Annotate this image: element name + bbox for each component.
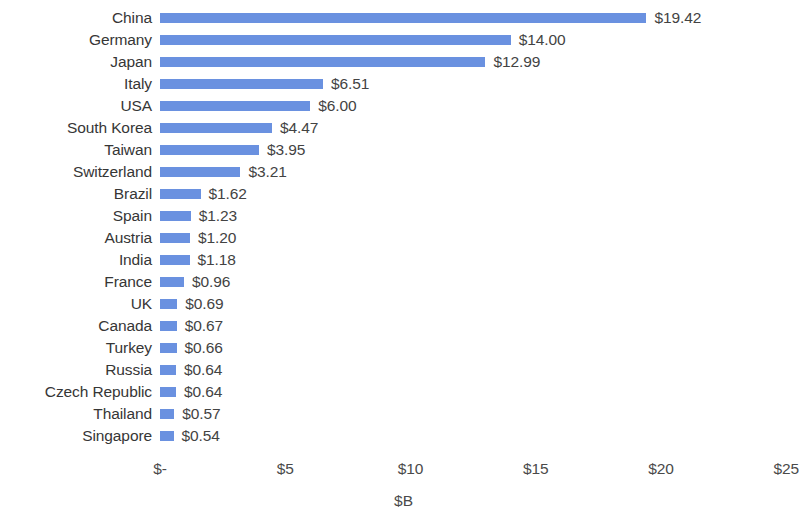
x-axis-tick-label: $5 — [277, 455, 294, 483]
bar-row: Canada$0.67 — [0, 315, 807, 337]
bar-row: France$0.96 — [0, 271, 807, 293]
bar — [160, 189, 201, 199]
bar-value-label: $0.54 — [182, 425, 220, 447]
bar-value-label: $19.42 — [654, 7, 701, 29]
category-label: France — [0, 271, 152, 293]
bar-row: Czech Republic$0.64 — [0, 381, 807, 403]
bar-value-label: $0.69 — [185, 293, 223, 315]
bar — [160, 123, 272, 133]
bar — [160, 145, 259, 155]
category-label: UK — [0, 293, 152, 315]
bar-value-label: $6.00 — [318, 95, 356, 117]
category-label: India — [0, 249, 152, 271]
bar — [160, 365, 176, 375]
bar-row: UK$0.69 — [0, 293, 807, 315]
bar-value-label: $0.57 — [182, 403, 220, 425]
bar — [160, 387, 176, 397]
bar-row: Taiwan$3.95 — [0, 139, 807, 161]
bar-value-label: $0.67 — [185, 315, 223, 337]
bar-row: USA$6.00 — [0, 95, 807, 117]
category-label: Germany — [0, 29, 152, 51]
bar-value-label: $4.47 — [280, 117, 318, 139]
bar — [160, 167, 240, 177]
bar-row: Japan$12.99 — [0, 51, 807, 73]
bar-row: Italy$6.51 — [0, 73, 807, 95]
bar — [160, 13, 646, 23]
bar-value-label: $0.64 — [184, 359, 222, 381]
bar-row: Singapore$0.54 — [0, 425, 807, 447]
bar-row: India$1.18 — [0, 249, 807, 271]
bar-value-label: $1.62 — [209, 183, 247, 205]
bar-row: Turkey$0.66 — [0, 337, 807, 359]
bar-chart: China$19.42Germany$14.00Japan$12.99Italy… — [0, 0, 807, 523]
x-axis-tick-label: $20 — [648, 455, 674, 483]
bar-value-label: $12.99 — [493, 51, 540, 73]
bar-row: South Korea$4.47 — [0, 117, 807, 139]
bar-value-label: $0.64 — [184, 381, 222, 403]
x-axis-title: $B — [0, 492, 807, 510]
category-label: Brazil — [0, 183, 152, 205]
bar — [160, 431, 174, 441]
category-label: Canada — [0, 315, 152, 337]
x-axis-tick-label: $25 — [773, 455, 799, 483]
x-axis-tick-label: $15 — [523, 455, 549, 483]
bar-value-label: $1.20 — [198, 227, 236, 249]
category-label: Russia — [0, 359, 152, 381]
bar-value-label: $1.18 — [198, 249, 236, 271]
bar-row: Russia$0.64 — [0, 359, 807, 381]
category-label: Thailand — [0, 403, 152, 425]
plot-area: China$19.42Germany$14.00Japan$12.99Italy… — [0, 0, 807, 523]
bar-row: Brazil$1.62 — [0, 183, 807, 205]
category-label: Japan — [0, 51, 152, 73]
category-label: Taiwan — [0, 139, 152, 161]
bar-row: Switzerland$3.21 — [0, 161, 807, 183]
bar — [160, 79, 323, 89]
bar-row: Thailand$0.57 — [0, 403, 807, 425]
bar-row: Germany$14.00 — [0, 29, 807, 51]
bar — [160, 299, 177, 309]
bar-value-label: $14.00 — [519, 29, 566, 51]
category-label: USA — [0, 95, 152, 117]
bar — [160, 343, 177, 353]
bar-value-label: $6.51 — [331, 73, 369, 95]
bar-value-label: $1.23 — [199, 205, 237, 227]
bar — [160, 35, 511, 45]
x-axis: $-$5$10$15$20$25 — [0, 455, 807, 483]
bar — [160, 409, 174, 419]
bar — [160, 101, 310, 111]
category-label: Singapore — [0, 425, 152, 447]
bar-value-label: $3.95 — [267, 139, 305, 161]
bar-row: Spain$1.23 — [0, 205, 807, 227]
x-axis-tick-label: $- — [153, 455, 167, 483]
category-label: Turkey — [0, 337, 152, 359]
category-label: Italy — [0, 73, 152, 95]
x-axis-tick-label: $10 — [398, 455, 424, 483]
bar — [160, 277, 184, 287]
category-label: Czech Republic — [0, 381, 152, 403]
bar — [160, 321, 177, 331]
category-label: South Korea — [0, 117, 152, 139]
bar-value-label: $0.96 — [192, 271, 230, 293]
bar-value-label: $0.66 — [185, 337, 223, 359]
bar — [160, 233, 190, 243]
category-label: Austria — [0, 227, 152, 249]
bar-row: Austria$1.20 — [0, 227, 807, 249]
bar-row: China$19.42 — [0, 7, 807, 29]
category-label: China — [0, 7, 152, 29]
bar — [160, 211, 191, 221]
bar-value-label: $3.21 — [248, 161, 286, 183]
category-label: Spain — [0, 205, 152, 227]
bar — [160, 57, 485, 67]
category-label: Switzerland — [0, 161, 152, 183]
bar — [160, 255, 190, 265]
